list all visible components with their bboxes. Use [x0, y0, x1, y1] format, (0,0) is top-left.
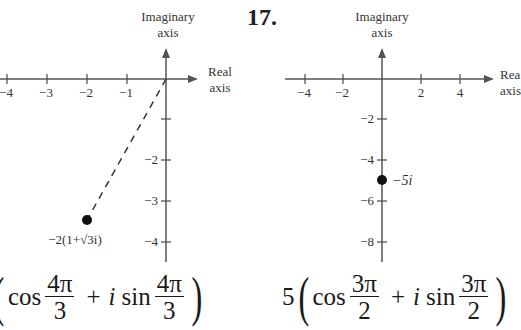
left-data-point: [82, 215, 92, 225]
left-imag-label-2: axis: [158, 25, 179, 40]
left-xtick-label: −4: [0, 85, 13, 100]
right-ytick-label: −2: [360, 111, 374, 126]
plus-sign: +: [86, 283, 100, 311]
fraction: 3π 2: [459, 271, 488, 323]
left-xtick-label: −2: [79, 85, 93, 100]
left-point-label: −2(1+√3i): [48, 232, 102, 247]
right-xtick-label: 2: [418, 85, 425, 100]
left-xtick-label: −3: [39, 85, 53, 100]
right-paren-close: ): [496, 270, 507, 324]
sin-label: sin: [426, 283, 455, 311]
cos-label: cos: [8, 283, 41, 311]
left-paren-open: (: [0, 270, 4, 324]
right-xtick-label: −2: [335, 85, 349, 100]
fraction: 4π 3: [155, 271, 184, 323]
left-complex-plane: [0, 50, 196, 262]
right-paren-open: (: [298, 270, 309, 324]
left-real-label-2: axis: [210, 80, 231, 95]
sin-label: sin: [122, 283, 151, 311]
right-ytick-label: −6: [360, 193, 374, 208]
left-paren-close: ): [191, 270, 202, 324]
imag-unit: i: [413, 283, 420, 311]
cos-label: cos: [312, 283, 345, 311]
right-imag-label-1: Imaginary: [355, 9, 409, 24]
right-xtick-label: 4: [457, 85, 464, 100]
plus-sign: +: [391, 283, 405, 311]
left-xtick-label: −1: [119, 85, 133, 100]
fraction: 3π 2: [350, 271, 379, 323]
coefficient: 5: [282, 283, 295, 311]
right-real-label-1: Rea: [500, 67, 520, 82]
right-data-point: [377, 175, 387, 185]
left-ytick-label: −2: [144, 152, 158, 167]
right-imag-label-2: axis: [372, 25, 393, 40]
right-real-label-2: axis: [500, 83, 521, 98]
fraction: 4π 3: [45, 271, 74, 323]
right-xtick-label: −4: [297, 85, 311, 100]
left-ytick-label: −4: [144, 234, 158, 249]
right-complex-plane: [285, 50, 492, 262]
problem-number: 17.: [247, 4, 277, 31]
right-point-label: −5i: [392, 173, 412, 188]
left-polar-formula: ( cos 4π 3 + i sin 4π 3 ): [0, 270, 206, 324]
left-ytick-label: −3: [144, 193, 158, 208]
left-real-label-1: Real: [208, 64, 232, 79]
left-imag-label-1: Imaginary: [141, 9, 195, 24]
imag-unit: i: [109, 283, 116, 311]
right-polar-formula: 5 ( cos 3π 2 + i sin 3π 2 ): [282, 270, 510, 324]
right-ytick-label: −8: [360, 234, 374, 249]
right-ytick-label: −4: [360, 152, 374, 167]
